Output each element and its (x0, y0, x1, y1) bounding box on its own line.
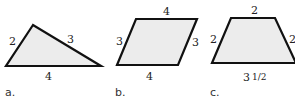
figure-c-trapezoid: 2 2 2 31/2 c. (210, 4, 295, 98)
trapezoid-side-left-label: 2 (210, 33, 217, 46)
trapezoid-bottom-whole: 3 (243, 71, 250, 84)
triangle-shape (6, 25, 101, 66)
figure-a-triangle: 2 3 4 a. (5, 25, 101, 98)
figure-b-parallelogram: 4 3 3 4 b. (115, 5, 199, 98)
parallelogram-side-top-label: 4 (163, 5, 170, 18)
parallelogram-shape (117, 19, 197, 65)
parallelogram-side-right-label: 3 (192, 36, 199, 49)
trapezoid-side-right-label: 2 (289, 33, 295, 46)
figure-a-caption: a. (5, 86, 15, 98)
parallelogram-side-bottom-label: 4 (146, 70, 153, 83)
trapezoid-side-bottom-label: 31/2 (243, 71, 266, 84)
trapezoid-bottom-fraction: 1/2 (252, 72, 266, 82)
parallelogram-side-left-label: 3 (116, 35, 123, 48)
figure-c-caption: c. (210, 86, 220, 98)
triangle-side-right-label: 3 (67, 33, 74, 46)
triangle-side-left-label: 2 (9, 35, 16, 48)
trapezoid-side-top-label: 2 (251, 4, 258, 17)
triangle-side-bottom-label: 4 (45, 70, 52, 83)
figure-b-caption: b. (115, 86, 125, 98)
geometry-figures: 2 3 4 a. 4 3 3 4 b. 2 2 2 31/2 c. (0, 0, 295, 98)
trapezoid-shape (212, 18, 295, 63)
